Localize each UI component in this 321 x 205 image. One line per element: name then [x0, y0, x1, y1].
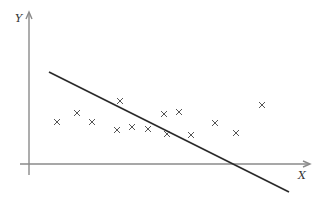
x-axis: [20, 161, 310, 167]
x-marker: [145, 126, 151, 132]
x-marker: [161, 111, 167, 117]
scatter-diagram: Y X: [0, 0, 321, 205]
data-points: [54, 98, 265, 138]
y-axis-label: Y: [15, 12, 24, 25]
x-marker: [54, 119, 60, 125]
y-axis: [26, 12, 32, 175]
x-marker: [233, 130, 239, 136]
x-marker: [188, 132, 194, 138]
x-marker: [117, 98, 123, 104]
x-marker: [176, 109, 182, 115]
x-marker: [212, 120, 218, 126]
x-axis-label: X: [297, 169, 307, 182]
x-marker: [259, 102, 265, 108]
x-marker: [89, 119, 95, 125]
x-marker: [114, 127, 120, 133]
x-marker: [74, 110, 80, 116]
x-marker: [129, 124, 135, 130]
